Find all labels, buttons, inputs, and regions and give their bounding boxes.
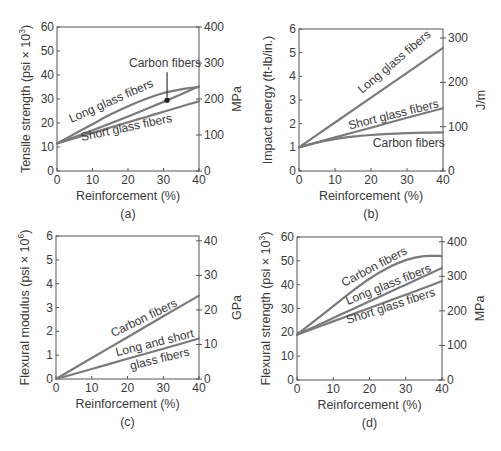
y2-tick-label: 0: [204, 164, 211, 178]
y2-tick-label: 200: [447, 304, 467, 318]
series-inline-label: Short glass fibers: [347, 96, 440, 132]
y-tick-label: 0: [289, 164, 296, 178]
x-tick-label: 10: [328, 173, 342, 187]
y2-tick-label: 200: [204, 92, 224, 106]
y-tick-label: 4: [46, 277, 53, 291]
annotation-label: Carbon fibers: [129, 56, 201, 70]
y-tick-label: 20: [281, 325, 295, 339]
x-tick-label: 10: [85, 381, 99, 395]
y-axis-label: Impact energy (ft-lb/in.): [261, 36, 275, 165]
y2-tick-label: 300: [204, 56, 224, 70]
y2-tick-label: 100: [447, 338, 467, 352]
y-axis-label-tail: ): [19, 25, 33, 29]
y-tick-label: 1: [289, 140, 296, 154]
y2-tick-label: 0: [448, 164, 455, 178]
y2-tick-label: 200: [448, 75, 468, 89]
x-axis-label: Reinforcement (%): [75, 397, 179, 411]
chart-panel-d: 01020304001020304050600100200300400Reinf…: [257, 230, 487, 430]
y-tick-label: 60: [41, 20, 55, 34]
y-tick-label: 10: [281, 349, 295, 363]
panel-label: (a): [120, 207, 135, 221]
y-tick-label: 40: [41, 68, 55, 82]
y-tick-label: 40: [281, 278, 295, 292]
x-axis-label: Reinforcement (%): [319, 189, 423, 203]
y-tick-label: 3: [46, 301, 53, 315]
x-tick-label: 10: [86, 173, 100, 187]
y-tick-label: 50: [41, 44, 55, 58]
panel-label: (b): [363, 207, 378, 221]
y-axis-label-base: Tensile strength (psi × 10: [19, 34, 33, 173]
charts-canvas: 01020304001020304050600100200300400Reinf…: [0, 0, 501, 451]
y-tick-label: 60: [281, 230, 295, 244]
y2-tick-label: 10: [204, 337, 218, 351]
annotation-dot-marker: [164, 98, 169, 103]
y2-axis-label: J/m: [474, 90, 488, 110]
y-tick-label: 30: [281, 302, 295, 316]
y-axis-label: Tensile strength (psi × 103): [17, 25, 33, 173]
y-axis-label: Flexural modulus (psi × 106): [16, 230, 32, 386]
y-axis-label-tail: ): [259, 232, 273, 236]
y-tick-label: 3: [289, 93, 296, 107]
y2-axis-label: MPa: [473, 296, 487, 322]
y-axis-label: Flexural strength (psi × 103): [257, 232, 273, 386]
y-axis-label-base: Flexural modulus (psi × 10: [18, 238, 32, 385]
y-tick-label: 0: [287, 373, 294, 387]
y-tick-label: 50: [281, 254, 295, 268]
chart-panel-b: 01020304001234560100200300Reinforcement …: [261, 22, 488, 221]
y2-tick-label: 400: [447, 235, 467, 249]
x-tick-label: 20: [121, 173, 135, 187]
y-tick-label: 10: [41, 140, 55, 154]
y2-tick-label: 400: [204, 20, 224, 34]
y-tick-label: 6: [289, 22, 296, 36]
y-tick-label: 2: [289, 117, 296, 131]
x-tick-label: 0: [294, 382, 301, 396]
series-inline-label: Carbon fibers: [373, 136, 445, 150]
y-tick-label: 0: [46, 372, 53, 386]
y2-tick-label: 300: [448, 31, 468, 45]
y2-tick-label: 20: [204, 303, 218, 317]
y-tick-label: 6: [46, 229, 53, 243]
x-axis-label: Reinforcement (%): [317, 398, 421, 412]
x-tick-label: 30: [399, 382, 413, 396]
y-tick-label: 30: [41, 92, 55, 106]
figure-four-panel-charts: 01020304001020304050600100200300400Reinf…: [0, 0, 501, 451]
y2-axis-label: MPa: [230, 86, 244, 112]
y2-tick-label: 100: [204, 128, 224, 142]
y2-tick-label: 0: [447, 373, 454, 387]
y-tick-label: 0: [47, 164, 54, 178]
x-tick-label: 30: [157, 381, 171, 395]
y2-tick-label: 300: [447, 269, 467, 283]
y-axis-label-tail: ): [18, 230, 32, 234]
y2-tick-label: 0: [204, 372, 211, 386]
x-tick-label: 20: [363, 382, 377, 396]
x-tick-label: 0: [53, 381, 60, 395]
y-tick-label: 20: [41, 116, 55, 130]
x-axis-label: Reinforcement (%): [76, 189, 180, 203]
y-tick-label: 5: [46, 253, 53, 267]
x-tick-label: 30: [157, 173, 171, 187]
chart-panel-a: 01020304001020304050600100200300400Reinf…: [17, 20, 244, 221]
panel-label: (c): [120, 415, 135, 429]
y-tick-label: 4: [289, 69, 296, 83]
y-tick-label: 1: [46, 348, 53, 362]
y2-tick-label: 30: [204, 268, 218, 282]
x-tick-label: 0: [296, 173, 303, 187]
x-tick-label: 30: [400, 173, 414, 187]
y-tick-label: 5: [289, 46, 296, 60]
y2-tick-label: 100: [448, 120, 468, 134]
x-tick-label: 0: [54, 173, 61, 187]
y2-axis-label: GPa: [230, 295, 244, 320]
panel-label: (d): [362, 416, 377, 430]
y-axis-label-base: Flexural strength (psi × 10: [259, 240, 273, 385]
x-tick-label: 20: [121, 381, 135, 395]
chart-panel-c: 0102030400123456010203040Reinforcement (…: [16, 229, 244, 429]
y-tick-label: 2: [46, 324, 53, 338]
x-tick-label: 10: [327, 382, 341, 396]
y2-tick-label: 40: [204, 234, 218, 248]
x-tick-label: 20: [364, 173, 378, 187]
